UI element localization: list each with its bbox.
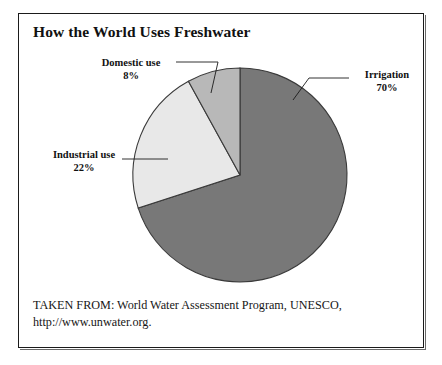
pie-label-irrigation-percent: 70%	[352, 82, 422, 95]
source-caption-line-1: TAKEN FROM: World Water Assessment Progr…	[33, 297, 378, 314]
source-caption-line-2: http://www.unwater.org.	[33, 314, 378, 331]
pie-label-domestic: Domestic use 8%	[88, 57, 174, 82]
figure-container: How the World Uses Freshwater Domestic u…	[0, 0, 442, 365]
pie-label-domestic-percent: 8%	[88, 70, 174, 83]
source-caption: TAKEN FROM: World Water Assessment Progr…	[33, 297, 378, 331]
pie-label-irrigation: Irrigation 70%	[352, 69, 422, 94]
pie-label-industrial-name: Industrial use	[38, 149, 130, 162]
pie-label-industrial-percent: 22%	[38, 162, 130, 175]
pie-label-industrial: Industrial use 22%	[38, 149, 130, 174]
pie-label-irrigation-name: Irrigation	[352, 69, 422, 82]
pie-label-domestic-name: Domestic use	[88, 57, 174, 70]
